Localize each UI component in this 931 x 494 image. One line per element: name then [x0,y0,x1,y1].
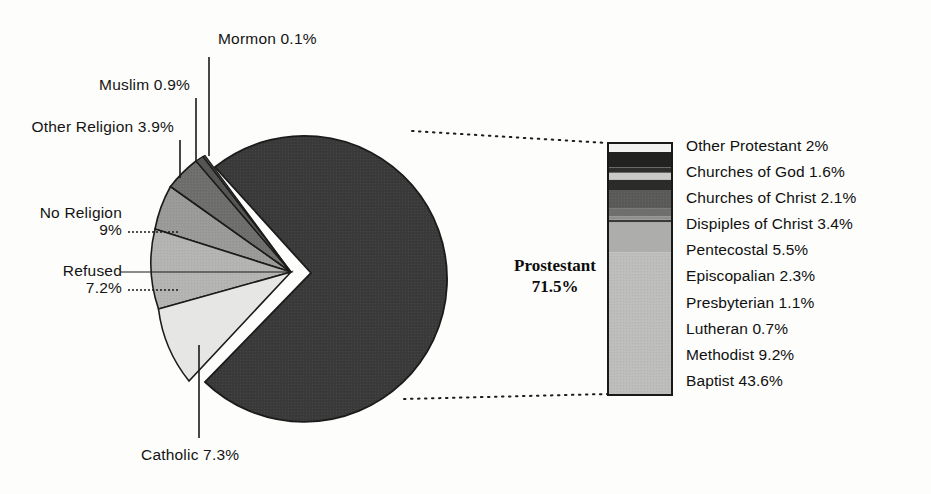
legend-item[interactable]: Other Protestant 2% [686,133,926,159]
bar-segment-other-protestant-band [608,152,672,168]
bar-segment-episcopalian[interactable] [608,209,672,217]
pie-label-mormon: Mormon 0.1% [218,30,317,47]
pie-label-protestant-name: Prostestant [514,256,596,275]
pie-label-protestant: Prostestant 71.5% [480,255,630,298]
bar-segment-churches-of-god[interactable] [608,168,672,173]
breakout-legend: Other Protestant 2% Churches of God 1.6%… [686,133,926,394]
chart-canvas: Mormon 0.1% Muslim 0.9% Other Religion 3… [0,0,931,494]
bar-segment-methodist[interactable] [608,222,672,252]
legend-item[interactable]: Churches of God 1.6% [686,159,926,185]
pie-label-no-religion-name: No Religion [40,204,122,221]
pie-label-no-religion-value: 9% [99,221,122,238]
bar-segment-pentecostal-texture [608,191,672,209]
pie-label-refused-name: Refused [63,262,122,279]
bar-segment-other-protestant-cap [608,143,672,152]
legend-item[interactable]: Lutheran 0.7% [686,316,926,342]
pie-label-refused: Refused 7.2% [0,262,122,297]
legend-item[interactable]: Episcopalian 2.3% [686,263,926,289]
pie-label-muslim: Muslim 0.9% [0,76,190,93]
pie-label-catholic: Catholic 7.3% [141,446,239,463]
callout-line-bottom [404,394,607,399]
bar-segment-dispiples-of-christ[interactable] [608,180,672,191]
bar-segment-churches-of-christ[interactable] [608,173,672,180]
pie-label-no-religion: No Religion 9% [0,204,122,239]
legend-item[interactable]: Baptist 43.6% [686,368,926,394]
legend-item[interactable]: Methodist 9.2% [686,342,926,368]
legend-item[interactable]: Churches of Christ 2.1% [686,185,926,211]
pie-label-other-religion: Other Religion 3.9% [0,118,174,135]
pie-label-protestant-value: 71.5% [532,277,579,296]
bar-segment-presbyterian[interactable] [608,216,672,220]
legend-item[interactable]: Presbyterian 1.1% [686,290,926,316]
callout-line-top [412,131,607,143]
bar-segment-lutheran[interactable] [608,220,672,222]
legend-item[interactable]: Dispiples of Christ 3.4% [686,211,926,237]
legend-item[interactable]: Pentecostal 5.5% [686,237,926,263]
pie-label-refused-value: 7.2% [86,279,122,296]
